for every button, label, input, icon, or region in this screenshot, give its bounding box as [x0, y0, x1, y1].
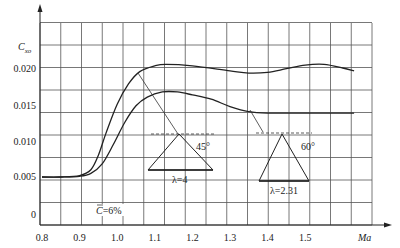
y-tick-label: 0.005 — [14, 171, 37, 182]
curves — [42, 64, 354, 177]
x-tick-label: 1.4 — [261, 232, 274, 243]
x-tick-label: 1.3 — [224, 232, 237, 243]
wedge-45-icon — [148, 134, 213, 170]
y-tick-label: 0.015 — [14, 100, 37, 111]
angle-60-label: 60° — [301, 141, 315, 152]
y-axis-label: Cxo — [18, 41, 32, 55]
curve-lambda-4 — [42, 64, 354, 177]
x-tick-label: 0.8 — [36, 232, 49, 243]
y-tick-label: 0 — [31, 209, 36, 220]
x-tick-labels: 0.80.91.01.11.21.31.41.5 — [36, 232, 312, 243]
x-axis-label: Ma — [357, 232, 371, 243]
lambda-2-31-label: λ=2.31 — [270, 185, 298, 196]
y-tick-label: 0.010 — [14, 136, 37, 147]
x-tick-label: 1.5 — [299, 232, 312, 243]
x-tick-label: 1.0 — [111, 232, 124, 243]
angle-45-label: 45° — [196, 141, 210, 152]
thickness-label: C=6% — [96, 205, 122, 216]
lambda-4-label: λ=4 — [172, 174, 188, 185]
y-axis-arrow-icon — [38, 4, 43, 12]
x-tick-label: 1.1 — [149, 232, 162, 243]
drag-coefficient-chart: 00.0050.0100.0150.020 0.80.91.01.11.21.3… — [0, 0, 400, 248]
x-axis-arrow-icon — [384, 223, 392, 228]
x-tick-label: 1.2 — [186, 232, 199, 243]
y-tick-label: 0.020 — [14, 63, 37, 74]
y-tick-labels: 00.0050.0100.0150.020 — [14, 63, 37, 220]
grid — [40, 23, 372, 226]
x-tick-label: 0.9 — [73, 232, 86, 243]
